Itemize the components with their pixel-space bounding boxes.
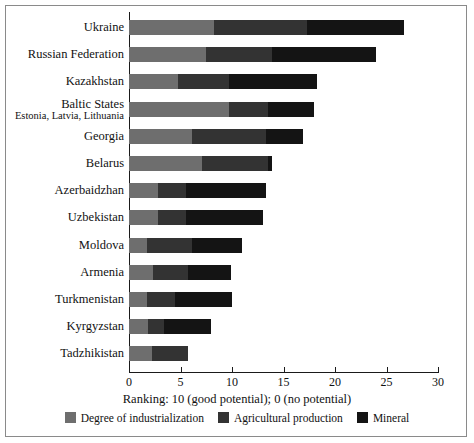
bar-row: Armenia — [6, 261, 468, 283]
bar-segment — [153, 265, 188, 280]
stacked-bar — [129, 238, 438, 253]
bar-segment — [129, 47, 206, 62]
bar-row: Georgia — [6, 125, 468, 147]
bar-segment — [206, 47, 272, 62]
legend-swatch-icon — [357, 412, 368, 423]
x-axis-tick — [181, 367, 182, 372]
bar-segment — [229, 74, 318, 89]
stacked-bar — [129, 47, 438, 62]
bar-segment — [192, 129, 266, 144]
bar-row: Kazakhstan — [6, 70, 468, 92]
bar-segment — [129, 292, 147, 307]
legend-item[interactable]: Mineral — [357, 412, 409, 424]
bar-segment — [186, 210, 263, 225]
x-axis-tick — [438, 367, 439, 372]
chart-legend: Degree of industrializationAgricultural … — [6, 412, 468, 424]
category-label: Turkmenistan — [4, 288, 124, 310]
x-axis-line — [129, 372, 439, 373]
stacked-bar — [129, 20, 438, 35]
bar-segment — [129, 129, 192, 144]
x-axis-tick-label: 15 — [269, 375, 299, 390]
x-axis-tick-label: 20 — [320, 375, 350, 390]
bar-segment — [129, 183, 158, 198]
bar-segment — [129, 210, 158, 225]
bar-row: Belarus — [6, 152, 468, 174]
bar-row: Moldova — [6, 234, 468, 256]
bar-segment — [147, 238, 192, 253]
x-axis-tick — [335, 367, 336, 372]
category-label: Russian Federation — [4, 43, 124, 65]
category-label: Ukraine — [4, 16, 124, 38]
bar-segment — [147, 292, 176, 307]
bar-segment — [129, 238, 147, 253]
legend-label: Degree of industrialization — [81, 412, 204, 424]
bar-segment — [129, 74, 178, 89]
x-axis-tick-label: 5 — [166, 375, 196, 390]
bar-row: Baltic StatesEstonia, Latvia, Lithuania — [6, 98, 468, 120]
x-axis-tick-label: 0 — [114, 375, 144, 390]
stacked-bar — [129, 129, 438, 144]
category-label: Belarus — [4, 152, 124, 174]
bar-segment — [268, 156, 272, 171]
bar-segment — [148, 319, 164, 334]
plot-area: UkraineRussian FederationKazakhstanBalti… — [6, 6, 468, 438]
bar-segment — [129, 265, 153, 280]
bar-segment — [214, 20, 307, 35]
category-label: Tadzhikistan — [4, 342, 124, 364]
x-axis-tick — [232, 367, 233, 372]
bar-segment — [307, 20, 404, 35]
x-axis-tick — [284, 367, 285, 372]
stacked-bar — [129, 156, 438, 171]
legend-label: Mineral — [373, 412, 409, 424]
x-axis-tick-label: 10 — [217, 375, 247, 390]
bar-segment — [164, 319, 211, 334]
category-label: Kyrgyzstan — [4, 315, 124, 337]
stacked-bar — [129, 210, 438, 225]
stacked-bar — [129, 292, 438, 307]
bar-segment — [178, 74, 228, 89]
category-label: Baltic StatesEstonia, Latvia, Lithuania — [4, 98, 124, 122]
bar-segment — [129, 102, 229, 117]
category-label: Uzbekistan — [4, 206, 124, 228]
stacked-bar — [129, 183, 438, 198]
bar-row: Azerbaidzhan — [6, 179, 468, 201]
bar-segment — [175, 292, 232, 307]
bar-segment — [268, 102, 314, 117]
legend-swatch-icon — [65, 412, 76, 423]
x-axis-tick — [387, 367, 388, 372]
stacked-bar — [129, 102, 438, 117]
bar-segment — [158, 210, 186, 225]
stacked-bar — [129, 346, 438, 361]
bar-segment — [188, 265, 231, 280]
bar-segment — [272, 47, 376, 62]
bar-segment — [129, 20, 214, 35]
category-label-sub: Estonia, Latvia, Lithuania — [4, 110, 124, 122]
x-axis-tick-label: 25 — [372, 375, 402, 390]
bar-segment — [152, 346, 188, 361]
stacked-bar — [129, 265, 438, 280]
bar-row: Russian Federation — [6, 43, 468, 65]
bar-row: Tadzhikistan — [6, 342, 468, 364]
legend-item[interactable]: Agricultural production — [218, 412, 343, 424]
category-label: Kazakhstan — [4, 70, 124, 92]
bar-segment — [158, 183, 186, 198]
x-axis-tick — [129, 367, 130, 372]
legend-swatch-icon — [218, 412, 229, 423]
x-axis-caption: Ranking: 10 (good potential); 0 (no pote… — [6, 392, 468, 407]
legend-item[interactable]: Degree of industrialization — [65, 412, 204, 424]
category-label: Azerbaidzhan — [4, 179, 124, 201]
legend-label: Agricultural production — [234, 412, 343, 424]
category-label: Moldova — [4, 234, 124, 256]
bar-row: Turkmenistan — [6, 288, 468, 310]
bar-segment — [192, 238, 242, 253]
stacked-bar — [129, 74, 438, 89]
bar-row: Ukraine — [6, 16, 468, 38]
stacked-bar — [129, 319, 438, 334]
category-label: Armenia — [4, 261, 124, 283]
bar-segment — [129, 346, 152, 361]
category-label-main: Baltic States — [61, 97, 124, 111]
bar-segment — [266, 129, 303, 144]
bar-segment — [129, 319, 148, 334]
x-axis-tick-label: 30 — [423, 375, 453, 390]
bar-segment — [202, 156, 268, 171]
